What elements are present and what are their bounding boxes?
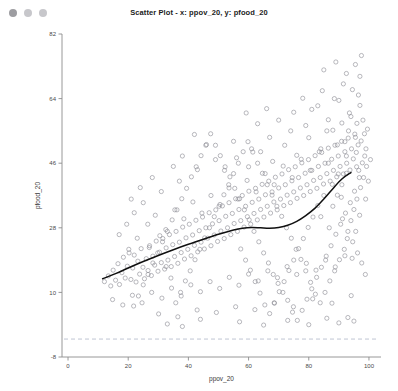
data-point <box>358 213 362 217</box>
data-point <box>260 171 264 175</box>
data-point <box>197 229 201 233</box>
data-point <box>355 251 359 255</box>
data-point <box>282 280 286 284</box>
data-point <box>257 197 261 201</box>
data-point <box>184 236 188 240</box>
data-point <box>194 218 198 222</box>
data-point <box>273 175 277 179</box>
window-controls[interactable] <box>9 9 47 17</box>
minimize-button[interactable] <box>24 9 32 17</box>
data-point <box>256 122 260 126</box>
data-point <box>362 132 366 136</box>
data-point <box>260 182 264 186</box>
data-point <box>318 175 322 179</box>
data-point <box>334 60 338 64</box>
data-point <box>337 98 341 102</box>
data-point <box>307 323 311 327</box>
data-point <box>247 189 251 193</box>
data-point <box>192 132 196 136</box>
data-point <box>218 286 222 290</box>
data-point <box>271 159 275 163</box>
data-point <box>334 232 338 236</box>
data-point <box>209 193 213 197</box>
x-tick-label: 100 <box>364 363 375 369</box>
data-point <box>348 168 352 172</box>
data-point <box>344 71 348 75</box>
data-point <box>121 303 125 307</box>
data-point <box>316 164 320 168</box>
data-point <box>270 193 274 197</box>
data-point <box>300 308 304 312</box>
data-point <box>239 247 243 251</box>
data-point <box>170 218 174 222</box>
data-point <box>324 258 328 262</box>
data-point <box>337 258 341 262</box>
data-point <box>346 136 350 140</box>
data-point <box>159 261 163 265</box>
data-point <box>295 272 299 276</box>
data-point <box>135 236 139 240</box>
data-point <box>304 123 308 127</box>
data-point <box>252 211 256 215</box>
data-point <box>285 264 289 268</box>
data-point <box>214 208 218 212</box>
data-point <box>360 161 364 165</box>
data-point <box>244 111 248 115</box>
data-point <box>361 175 365 179</box>
data-point <box>224 214 228 218</box>
data-point <box>326 146 330 150</box>
maximize-button[interactable] <box>39 9 47 17</box>
app-window: Scatter Plot - x: ppov_20, y: pfood_20 0… <box>0 0 398 391</box>
data-point <box>239 219 243 223</box>
data-point <box>183 279 187 283</box>
data-point <box>180 324 184 328</box>
data-point <box>295 153 299 157</box>
data-point <box>352 189 356 193</box>
data-point <box>245 215 249 219</box>
data-point <box>318 301 322 305</box>
data-point <box>158 234 162 238</box>
data-point <box>277 186 281 190</box>
data-point <box>117 233 121 237</box>
scatter-plot-chart: 020406080100ppov_20-81028466482pfood_20 <box>0 26 398 391</box>
data-point <box>192 243 196 247</box>
data-point <box>193 258 197 262</box>
data-point <box>342 247 346 251</box>
data-point <box>234 156 238 160</box>
data-point <box>117 282 121 286</box>
data-point <box>281 164 285 168</box>
data-point <box>111 268 115 272</box>
close-button[interactable] <box>9 9 17 17</box>
data-point <box>231 139 235 143</box>
data-point <box>345 236 349 240</box>
data-point <box>364 164 368 168</box>
data-point <box>146 222 150 226</box>
data-point <box>335 193 339 197</box>
data-point <box>146 268 150 272</box>
data-point <box>139 247 143 251</box>
data-point <box>172 254 176 258</box>
data-point <box>243 258 247 262</box>
data-point <box>154 239 158 243</box>
data-point <box>232 221 236 225</box>
data-point <box>315 275 319 279</box>
data-point <box>310 287 314 291</box>
data-point <box>351 157 355 161</box>
data-point <box>308 189 312 193</box>
data-point <box>338 164 342 168</box>
data-point <box>368 158 372 162</box>
data-point <box>227 183 231 187</box>
data-point <box>182 217 186 221</box>
data-point <box>301 236 305 240</box>
data-point <box>236 161 240 165</box>
data-point <box>314 268 318 272</box>
data-point <box>355 121 359 125</box>
data-point <box>246 272 250 276</box>
data-point <box>276 281 280 285</box>
data-point <box>357 168 361 172</box>
data-point <box>315 186 319 190</box>
data-point <box>189 254 193 258</box>
data-point <box>354 229 358 233</box>
data-point <box>138 272 142 276</box>
data-point <box>346 129 350 133</box>
